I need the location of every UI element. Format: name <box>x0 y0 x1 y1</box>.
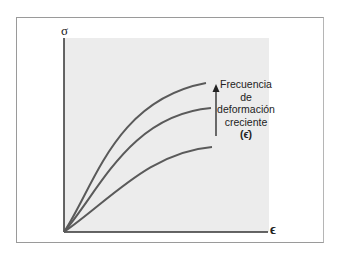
annotation-line: creciente <box>216 116 276 129</box>
annotation-line: Frecuencia <box>216 78 276 91</box>
annotation-line: deformación <box>216 103 276 116</box>
curve-medium <box>64 108 211 232</box>
x-axis-label: ϵ <box>270 222 276 238</box>
strain-rate-annotation: Frecuencia de deformación creciente (ϵ̇) <box>216 78 276 141</box>
curve-high <box>64 83 206 232</box>
annotation-line: (ϵ̇) <box>216 128 276 141</box>
y-axis-label: σ <box>61 23 68 39</box>
curve-low <box>64 147 212 232</box>
chart-svg <box>0 0 341 255</box>
annotation-line: de <box>216 91 276 104</box>
